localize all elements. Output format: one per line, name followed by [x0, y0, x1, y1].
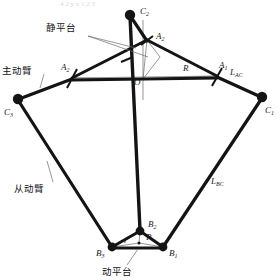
kinematic-diagram: 4 2 y x 1 2 3 — [0, 0, 280, 280]
construction-lines — [72, 20, 217, 100]
driving-arm-A1-C1 — [217, 77, 261, 97]
point-label-B1: B1 — [169, 248, 178, 259]
point-label-B2: B2 — [148, 219, 157, 230]
static-edge-A2-A1 — [147, 40, 217, 76]
point-label-C3: C3 — [4, 107, 13, 118]
label-moving-platform: 动平台 — [102, 266, 132, 277]
dimension-label-L-lower: LBC — [210, 176, 225, 187]
static-platform-thin-triangle — [72, 40, 217, 78]
leader-driving-arm — [40, 74, 44, 88]
node-P-center — [138, 242, 141, 245]
node-B2 — [136, 227, 145, 236]
driving-arm-A2-C2 — [131, 17, 147, 41]
label-driven-arm: 从动臂 — [14, 183, 44, 194]
dimension-label-L-upper: LAC — [229, 67, 244, 78]
node-C2 — [125, 10, 135, 20]
figure-canvas: 4 2 y x 1 2 3 — [0, 0, 280, 280]
point-label-A2: A2 — [155, 31, 165, 42]
point-label-P: P — [145, 232, 152, 242]
static-edge-A3-A2 — [72, 40, 147, 78]
static-platform-frame — [72, 40, 217, 80]
label-driving-arm: 主动臂 — [2, 65, 32, 76]
leader-moving-platform — [127, 249, 138, 265]
point-label-A3: A2 — [60, 62, 70, 73]
driven-arm-C1-B1 — [163, 98, 262, 247]
point-label-C2: C2 — [140, 6, 149, 17]
radius-O-A2 — [143, 40, 147, 79]
point-label-O: O — [134, 77, 141, 87]
point-label-A1: A1 — [218, 60, 228, 71]
driving-arm-A3-C3 — [19, 79, 72, 99]
label-static-platform: 静平台 — [46, 22, 76, 33]
helper-A2-O — [143, 57, 160, 79]
dimension-label-r: r — [124, 235, 128, 245]
point-label-B3: B3 — [96, 248, 105, 259]
node-B1 — [159, 243, 168, 252]
node-C3 — [13, 94, 23, 104]
dimension-label-R: R — [182, 63, 189, 73]
driven-arm-C3-B3 — [18, 100, 112, 247]
leader-static-platform-a — [88, 36, 136, 48]
page-bleed-text: 4 2 y x 1 2 3 — [60, 0, 96, 8]
leader-driven-arm — [47, 161, 53, 182]
static-edge-A3-A1 — [72, 78, 217, 80]
node-B3 — [108, 243, 117, 252]
node-C1 — [257, 92, 267, 102]
point-label-C1: C1 — [265, 105, 274, 116]
